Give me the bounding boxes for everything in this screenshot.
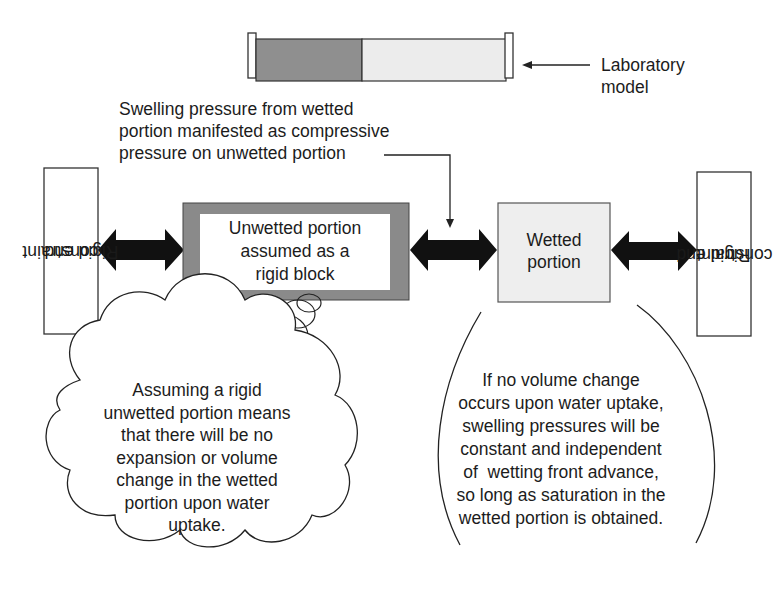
swelling-note-line1: Swelling pressure from wetted: [119, 98, 389, 120]
swelling-note-line2: portion manifested as compressive: [119, 120, 389, 142]
thought-line: uptake.: [84, 514, 310, 537]
callout-line: wetted portion is obtained.: [433, 507, 689, 530]
thought-line: unwetted portion means: [84, 402, 310, 425]
thought-bubble-text: Assuming a rigid unwetted portion means …: [84, 379, 310, 537]
thought-line: Assuming a rigid: [84, 379, 310, 402]
swelling-pressure-note: Swelling pressure from wetted portion ma…: [119, 98, 389, 164]
callout-text: If no volume change occurs upon water up…: [433, 369, 689, 530]
thought-line: expansion or volume: [84, 447, 310, 470]
wetted-line1: Wetted: [498, 229, 610, 251]
unwetted-block-label: Unwetted portion assumed as a rigid bloc…: [200, 217, 390, 286]
callout-line: so long as saturation in the: [433, 484, 689, 507]
thought-line: change in the wetted: [84, 469, 310, 492]
swelling-note-line3: pressure on unwetted portion: [119, 142, 389, 164]
right-constraint-label: Rigid end constraint: [697, 172, 751, 336]
wetted-block-label: Wetted portion: [498, 229, 610, 273]
left-constraint-label: Rigid end constraint: [44, 168, 98, 334]
callout-line: swelling pressures will be: [433, 415, 689, 438]
unwetted-line1: Unwetted portion: [200, 217, 390, 240]
right-constraint-line2: constraint: [697, 244, 773, 265]
wetted-line2: portion: [498, 251, 610, 273]
lab-model-label: Laboratory model: [601, 54, 685, 98]
lab-model-label-line1: Laboratory: [601, 54, 685, 76]
unwetted-line3: rigid block: [200, 263, 390, 286]
left-constraint-line2: constraint: [23, 241, 99, 262]
thought-line: portion upon water: [84, 492, 310, 515]
callout-line: occurs upon water uptake,: [433, 392, 689, 415]
middle-double-arrow: [410, 229, 497, 271]
lab-model-pointer-arrow: [522, 61, 590, 69]
callout-line: of wetting front advance,: [433, 461, 689, 484]
thought-line: that there will be no: [84, 424, 310, 447]
callout-line: constant and independent: [433, 438, 689, 461]
unwetted-line2: assumed as a: [200, 240, 390, 263]
lab-model-label-line2: model: [601, 76, 685, 98]
laboratory-model: [248, 33, 513, 81]
callout-line: If no volume change: [433, 369, 689, 392]
